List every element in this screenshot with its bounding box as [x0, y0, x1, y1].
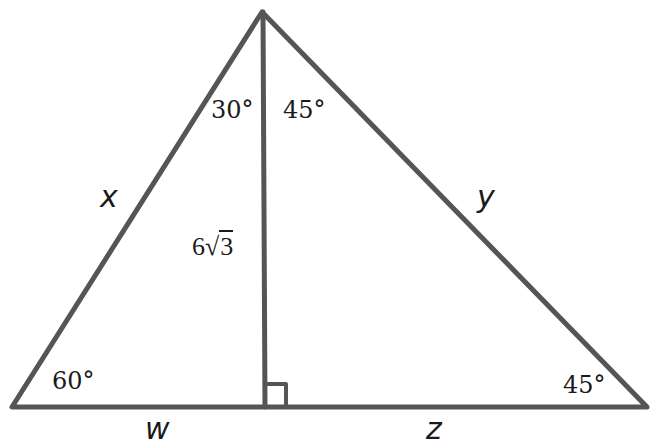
square-root: √3 [205, 234, 233, 260]
altitude-radicand: 3 [219, 230, 233, 261]
right-angle-marker [265, 384, 286, 407]
side-x-label: x [100, 182, 118, 212]
angle-apex-right-label: 45° [283, 98, 326, 122]
angle-apex-left-label: 30° [211, 98, 254, 122]
radical-sign: √ [205, 232, 219, 261]
angle-bottom-left-label: 60° [52, 369, 95, 393]
side-z-label: z [426, 414, 442, 444]
angle-bottom-right-label: 45° [563, 373, 606, 397]
side-w-label: w [145, 414, 170, 444]
side-y-label: y [477, 182, 495, 212]
altitude-length-label: 6√3 [192, 234, 233, 260]
triangle-figure [0, 0, 656, 444]
triangle-diagram: 30° 45° 60° 45° x y w z 6√3 [0, 0, 656, 444]
altitude-line [263, 12, 265, 407]
altitude-coefficient: 6 [192, 232, 205, 261]
